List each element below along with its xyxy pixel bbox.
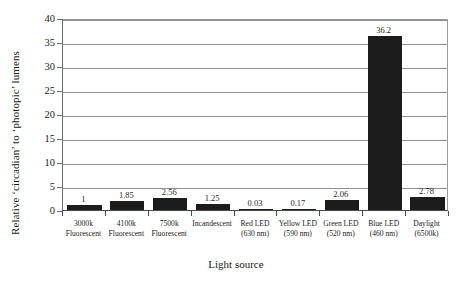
bar-value-label: 2.06 xyxy=(319,190,362,199)
x-category-label: Blue LED(460 nm) xyxy=(362,219,405,238)
y-tick-label: 20 xyxy=(11,110,55,120)
x-category-label: 7500kFluorescent xyxy=(148,219,191,238)
x-category-label: Red LED(630 nm) xyxy=(234,219,277,238)
x-category-label-line: (630 nm) xyxy=(234,229,277,239)
y-tick-label: 0 xyxy=(11,206,55,216)
x-tick-mark xyxy=(319,211,320,216)
bar-value-label: 0.03 xyxy=(234,199,277,208)
x-category-label-line: Incandescent xyxy=(191,219,234,229)
bar xyxy=(110,201,144,210)
bar-value-label: 2.78 xyxy=(405,187,448,196)
x-category-label-line: Daylight xyxy=(405,219,448,229)
bar xyxy=(196,204,230,210)
bar-value-label: 1.25 xyxy=(191,194,234,203)
bar xyxy=(282,209,316,210)
x-category-label: Yellow LED(590 nm) xyxy=(276,219,319,238)
bar-value-label: 1.85 xyxy=(105,191,148,200)
x-category-label-line: Green LED xyxy=(319,219,362,229)
x-category-label-line: (590 nm) xyxy=(276,229,319,239)
chart-screenshot: Relative ‘circadian’ to ‘photopic’ lumen… xyxy=(0,0,472,286)
y-tick-label: 35 xyxy=(11,38,55,48)
x-tick-mark xyxy=(148,211,149,216)
x-category-label: 3000kFluorescent xyxy=(62,219,105,238)
y-tick-label: 30 xyxy=(11,62,55,72)
x-tick-mark xyxy=(405,211,406,216)
x-category-label-line: Red LED xyxy=(234,219,277,229)
x-category-label: 4100kFluorescent xyxy=(105,219,148,238)
x-category-label-line: Fluorescent xyxy=(148,229,191,239)
x-category-label-line: Fluorescent xyxy=(62,229,105,239)
y-tick-label: 15 xyxy=(11,134,55,144)
x-tick-mark xyxy=(191,211,192,216)
x-category-label-line: 7500k xyxy=(148,219,191,229)
x-tick-mark xyxy=(362,211,363,216)
y-tick-label: 40 xyxy=(11,14,55,24)
x-category-label-line: (6500k) xyxy=(405,229,448,239)
bar-value-label: 1 xyxy=(62,195,105,204)
gridline xyxy=(63,20,447,21)
bar xyxy=(368,36,402,210)
bar-value-label: 36.2 xyxy=(362,26,405,35)
bar xyxy=(325,200,359,210)
bar-value-label: 0.17 xyxy=(276,199,319,208)
bar-value-label: 2.56 xyxy=(148,188,191,197)
x-category-label-line: Blue LED xyxy=(362,219,405,229)
x-category-label-line: 3000k xyxy=(62,219,105,229)
x-category-label: Green LED(520 nm) xyxy=(319,219,362,238)
bar xyxy=(410,197,444,210)
x-category-label: Daylight(6500k) xyxy=(405,219,448,238)
x-category-label: Incandescent xyxy=(191,219,234,229)
bar xyxy=(239,209,273,210)
x-category-label-line: Yellow LED xyxy=(276,219,319,229)
x-tick-mark xyxy=(448,211,449,216)
x-tick-mark xyxy=(105,211,106,216)
bar xyxy=(67,205,101,210)
x-category-label-line: (520 nm) xyxy=(319,229,362,239)
x-tick-mark xyxy=(234,211,235,216)
x-tick-mark xyxy=(276,211,277,216)
bar xyxy=(153,198,187,210)
x-tick-mark xyxy=(62,211,63,216)
plot-area xyxy=(62,19,448,211)
x-category-label-line: (460 nm) xyxy=(362,229,405,239)
y-tick-label: 10 xyxy=(11,158,55,168)
x-category-label-line: Fluorescent xyxy=(105,229,148,239)
x-axis-title: Light source xyxy=(0,258,472,270)
y-tick-label: 25 xyxy=(11,86,55,96)
y-tick-label: 5 xyxy=(11,182,55,192)
x-category-label-line: 4100k xyxy=(105,219,148,229)
